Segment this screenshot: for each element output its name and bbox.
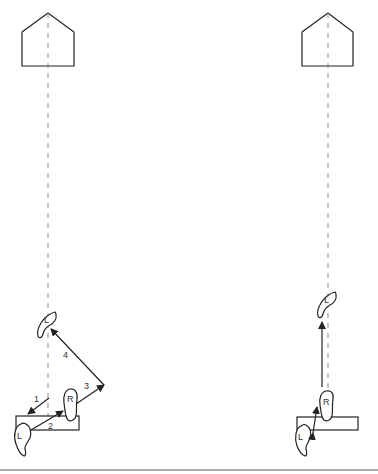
right-panel: L R L <box>296 13 358 456</box>
foot-label: L <box>324 295 329 305</box>
step-label-3: 3 <box>84 381 89 391</box>
foot-left-end: L <box>318 292 337 318</box>
footwork-diagram: L R L 1 2 3 4 L R <box>0 0 378 474</box>
foot-left-end: L <box>38 312 57 338</box>
step-arrow-3 <box>76 385 104 404</box>
foot-left-start: L <box>15 423 31 456</box>
foot-right: R <box>64 389 77 421</box>
step-label-1: 1 <box>34 394 39 404</box>
foot-label: L <box>44 315 49 325</box>
target-house-right <box>302 13 353 66</box>
target-house-left <box>22 13 74 66</box>
left-panel: L R L 1 2 3 4 <box>15 13 104 456</box>
foot-label: R <box>323 397 330 407</box>
step-label-2: 2 <box>48 421 53 431</box>
foot-label: L <box>298 432 303 442</box>
foot-right: R <box>320 391 333 421</box>
step-arrow-4 <box>51 329 104 385</box>
step-label-4: 4 <box>63 350 68 360</box>
foot-label: R <box>67 394 74 404</box>
foot-left-start: L <box>296 425 311 456</box>
foot-label: L <box>17 431 22 441</box>
